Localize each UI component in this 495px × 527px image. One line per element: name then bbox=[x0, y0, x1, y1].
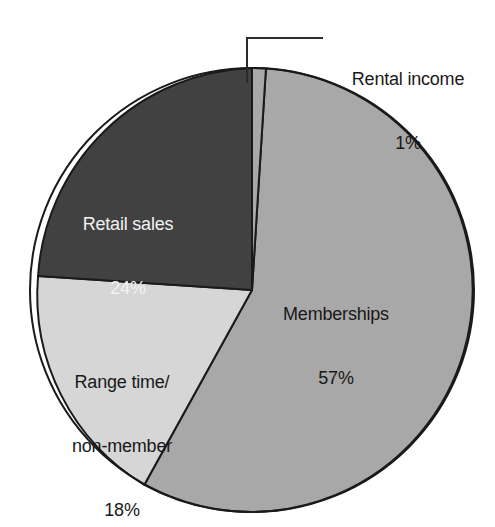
pie-label-rental-income: Rental income 1% bbox=[326, 27, 490, 197]
pie-label-range-time-percent: 18% bbox=[22, 500, 222, 521]
pie-label-memberships-percent: 57% bbox=[246, 368, 426, 389]
pie-label-range-time-name-line2: non-member bbox=[22, 436, 222, 457]
pie-label-rental-income-percent: 1% bbox=[326, 133, 490, 154]
pie-label-rental-income-name: Rental income bbox=[326, 69, 490, 90]
pie-label-memberships-name: Memberships bbox=[246, 304, 426, 325]
pie-label-range-time: Range time/ non-member 18% bbox=[22, 330, 222, 527]
pie-label-retail-sales: Retail sales 24% bbox=[40, 172, 216, 342]
pie-chart: Memberships 57% Retail sales 24% Range t… bbox=[0, 0, 495, 527]
pie-label-memberships: Memberships 57% bbox=[246, 262, 426, 432]
pie-label-retail-sales-name: Retail sales bbox=[40, 214, 216, 235]
pie-label-range-time-name-line1: Range time/ bbox=[22, 372, 222, 393]
pie-label-retail-sales-percent: 24% bbox=[40, 278, 216, 299]
